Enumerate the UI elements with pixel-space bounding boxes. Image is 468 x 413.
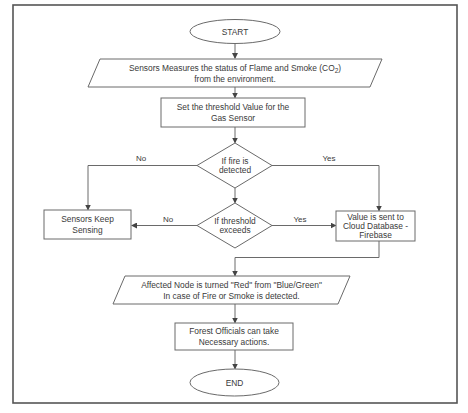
start-terminal: START — [190, 20, 280, 44]
cloud-database-node: Value is sent to Cloud Database - Fireba… — [336, 211, 415, 241]
keep-sensing-node: Sensors Keep Sensing — [44, 210, 131, 239]
threshold-label-line1: Set the threshold Value for the — [177, 102, 290, 112]
keep-sensing-line2: Sensing — [72, 225, 103, 235]
node-red-line1: Affected Node is turned "Red" from "Blue… — [141, 280, 322, 290]
threshold-decision-line2: exceeds — [219, 225, 250, 235]
fire-yes-label: Yes — [322, 154, 335, 163]
officials-line1: Forest Officials can take — [189, 326, 279, 336]
fire-decision-line2: detected — [219, 165, 251, 175]
node-red-io-node: Affected Node is turned "Red" from "Blue… — [113, 276, 350, 304]
end-terminal: END — [190, 369, 279, 396]
end-label: END — [226, 378, 244, 388]
threshold-no-label: No — [163, 215, 174, 224]
fire-decision-line1: If fire is — [222, 156, 249, 166]
threshold-yes-label: Yes — [293, 215, 306, 224]
node-red-line2: In case of Fire or Smoke is detected. — [163, 291, 299, 301]
measure-label-line2: from the environment. — [194, 74, 275, 84]
officials-line2: Necessary actions. — [199, 337, 270, 347]
keep-sensing-line1: Sensors Keep — [61, 214, 114, 224]
start-label: START — [222, 27, 249, 37]
flowchart: START Sensors Measures the status of Fla… — [0, 0, 468, 413]
cloud-line3: Firebase — [359, 230, 392, 240]
threshold-label-line2: Gas Sensor — [211, 113, 255, 123]
fire-no-label: No — [136, 154, 147, 163]
measure-io-node: Sensors Measures the status of Flame and… — [88, 59, 382, 87]
threshold-process-node: Set the threshold Value for the Gas Sens… — [161, 98, 305, 127]
threshold-decision-line1: If threshold — [214, 216, 256, 226]
measure-label-line1: Sensors Measures the status of Flame and… — [129, 63, 341, 74]
officials-process-node: Forest Officials can take Necessary acti… — [175, 323, 293, 350]
